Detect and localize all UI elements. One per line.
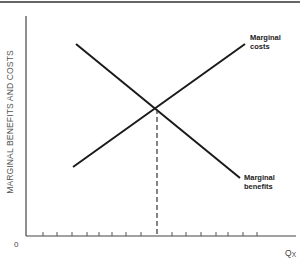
origin-label: 0 <box>14 240 18 249</box>
x-axis-label-main: Q <box>285 248 292 258</box>
chart-figure: MARGINAL BENEFITS AND COSTS 0 QX Margina… <box>0 0 308 264</box>
marginal-benefits-label: Marginal benefits <box>244 173 275 191</box>
x-axis-label-subscript: X <box>292 251 296 258</box>
x-axis-label: QX <box>285 248 296 258</box>
y-axis-label-text: MARGINAL BENEFITS AND COSTS <box>5 50 15 194</box>
marginal-costs-label: Marginal costs <box>250 33 281 51</box>
y-axis-label: MARGINAL BENEFITS AND COSTS <box>2 16 18 228</box>
marginal-benefits-label-line2: benefits <box>244 182 275 191</box>
marginal-costs-label-line1: Marginal <box>250 33 281 42</box>
marginal-benefits-label-line1: Marginal <box>244 173 275 182</box>
marginal-costs-label-line2: costs <box>250 42 281 51</box>
